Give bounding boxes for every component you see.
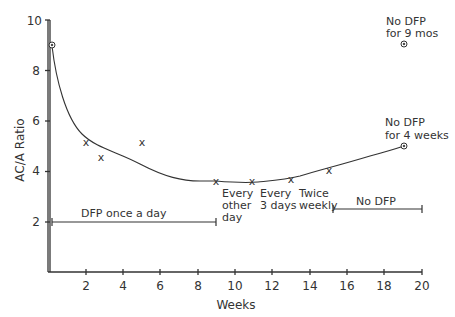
x-tick: 16 [339,279,354,293]
y-tick: 4 [32,164,40,178]
svg-text:x: x [83,136,90,149]
svg-text:x: x [98,151,105,164]
svg-text:x: x [139,136,146,149]
annotation-twice-line2: weekly [299,199,338,212]
y-tick: 8 [32,64,40,78]
chart: 2 4 6 8 10 2 4 6 8 10 12 14 16 18 20 Wee… [0,0,455,317]
y-tick-labels: 2 4 6 8 10 [27,14,42,229]
fitted-curve [52,46,404,182]
axes [45,20,422,275]
annotation-nodfp9-line2: for 9 mos [386,27,439,40]
y-tick: 6 [32,114,40,128]
annotation-nodfp4-line1: No DFP [385,116,425,129]
x-tick: 6 [156,279,164,293]
annotation-every-other-line3: day [222,211,243,224]
x-tick-labels: 2 4 6 8 10 12 14 16 18 20 [82,279,429,293]
circle-markers [49,41,407,149]
svg-text:x: x [213,175,220,188]
x-tick: 12 [264,279,279,293]
x-tick: 18 [376,279,391,293]
x-tick: 4 [119,279,127,293]
svg-text:x: x [288,173,295,186]
annotation-nodfp4-line2: for 4 weeks [385,129,449,142]
y-tick: 10 [27,14,42,28]
x-tick: 8 [194,279,202,293]
x-markers: x x x x x x x [83,136,333,188]
x-tick: 10 [227,279,242,293]
annotation-every3-line2: 3 days [260,199,297,212]
y-axis-title: AC/A Ratio [13,118,27,181]
x-tick: 14 [302,279,317,293]
annotation-dfp-once: DFP once a day [81,207,167,220]
svg-text:x: x [326,164,333,177]
x-tick: 20 [414,279,429,293]
y-tick: 2 [32,215,40,229]
annotation-no-dfp: No DFP [356,195,396,208]
x-axis-title: Weeks [216,298,255,312]
x-tick: 2 [82,279,90,293]
